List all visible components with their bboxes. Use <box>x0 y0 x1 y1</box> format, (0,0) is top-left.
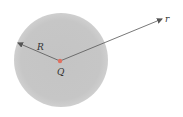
radius-label: R <box>36 42 44 52</box>
charge-point <box>58 59 62 63</box>
vector-label: r <box>165 14 170 24</box>
sphere-diagram: R Q r <box>0 0 183 117</box>
charge-label: Q <box>57 67 65 77</box>
